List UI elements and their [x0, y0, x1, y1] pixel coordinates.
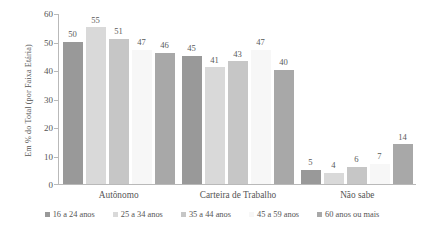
bar	[274, 70, 294, 184]
bar-value-label: 45	[187, 44, 196, 53]
bar-slot: 40	[272, 14, 295, 184]
bar-slot: 47	[130, 14, 153, 184]
bar-value-label: 47	[137, 38, 146, 47]
bar-value-label: 47	[256, 38, 265, 47]
chart-legend: 16 a 24 anos25 a 34 anos35 a 44 anos45 a…	[0, 210, 424, 219]
bar-value-label: 5	[308, 158, 312, 167]
bar-value-label: 6	[354, 155, 358, 164]
bar	[182, 56, 202, 184]
y-axis-tick-label: 40	[44, 67, 53, 76]
legend-label: 60 anos ou mais	[325, 210, 379, 219]
bar-slot: 4	[322, 14, 345, 184]
bar-value-label: 55	[91, 16, 100, 25]
bar-value-label: 40	[279, 58, 288, 67]
y-axis-tick-mark	[54, 43, 58, 44]
legend-swatch-icon	[181, 212, 186, 217]
bar-value-label: 51	[114, 27, 123, 36]
bar	[205, 67, 225, 184]
bar	[347, 167, 367, 184]
y-axis-title: Em % do Total (por Faixa Etária)	[24, 11, 33, 191]
legend-label: 35 a 44 anos	[189, 210, 231, 219]
legend-item[interactable]: 45 a 59 anos	[249, 210, 299, 219]
legend-label: 16 a 24 anos	[53, 210, 95, 219]
legend-item[interactable]: 25 a 34 anos	[113, 210, 163, 219]
x-axis-category-labels: AutônomoCarteira de TrabalhoNão sabe	[59, 190, 417, 200]
bar-value-label: 7	[377, 152, 381, 161]
bar-slot: 45	[180, 14, 203, 184]
legend-swatch-icon	[249, 212, 254, 217]
bar-value-label: 41	[210, 56, 219, 65]
bar	[370, 164, 390, 184]
y-axis-tick-mark	[54, 71, 58, 72]
bar-value-label: 43	[233, 50, 242, 59]
legend-swatch-icon	[317, 212, 322, 217]
legend-item[interactable]: 35 a 44 anos	[181, 210, 231, 219]
bar-slot: 51	[107, 14, 130, 184]
x-axis-category-label: Autônomo	[59, 190, 178, 200]
y-axis-tick-label: 30	[44, 95, 53, 104]
bar	[228, 61, 248, 184]
bar-slot: 14	[391, 14, 414, 184]
x-axis-category-label: Carteira de Trabalho	[178, 190, 297, 200]
x-axis-category-label: Não sabe	[298, 190, 417, 200]
legend-swatch-icon	[45, 212, 50, 217]
plot-area: 0102030405060 50555147464541434740546714	[58, 14, 416, 185]
bar-slot: 46	[153, 14, 176, 184]
bar	[251, 50, 271, 184]
bar	[132, 50, 152, 184]
y-axis-tick-label: 60	[44, 10, 53, 19]
y-axis-tick-label: 0	[49, 181, 54, 190]
bar-value-label: 4	[331, 161, 335, 170]
bar-slot: 43	[226, 14, 249, 184]
bar	[155, 53, 175, 184]
y-axis-tick-label: 10	[44, 152, 53, 161]
bar-group: 5055514746	[59, 14, 178, 184]
bar-group: 4541434740	[178, 14, 297, 184]
bar	[86, 27, 106, 184]
bar	[109, 39, 129, 184]
legend-item[interactable]: 60 anos ou mais	[317, 210, 379, 219]
y-axis-tick-mark	[54, 184, 58, 185]
bar-value-label: 46	[160, 41, 169, 50]
legend-label: 25 a 34 anos	[121, 210, 163, 219]
legend-swatch-icon	[113, 212, 118, 217]
y-axis-tick-mark	[54, 14, 58, 15]
y-axis-tick-mark	[54, 157, 58, 158]
bar-value-label: 14	[398, 133, 407, 142]
y-axis-tick-mark	[54, 128, 58, 129]
bar-slot: 47	[249, 14, 272, 184]
bar	[301, 170, 321, 184]
bar-value-label: 50	[68, 30, 77, 39]
y-axis-tick-label: 20	[44, 124, 53, 133]
bar-groups: 50555147464541434740546714	[59, 14, 416, 184]
bar-group: 546714	[297, 14, 416, 184]
y-axis-tick-label: 50	[44, 38, 53, 47]
bar-chart: Em % do Total (por Faixa Etária) 0102030…	[0, 0, 424, 234]
legend-item[interactable]: 16 a 24 anos	[45, 210, 95, 219]
bar-slot: 7	[368, 14, 391, 184]
x-axis-line	[58, 184, 416, 185]
bar	[63, 42, 83, 185]
bar-slot: 5	[299, 14, 322, 184]
bar	[324, 173, 344, 184]
bar-slot: 6	[345, 14, 368, 184]
bar	[393, 144, 413, 184]
bar-slot: 41	[203, 14, 226, 184]
bar-slot: 50	[61, 14, 84, 184]
y-axis-tick-mark	[54, 100, 58, 101]
legend-label: 45 a 59 anos	[257, 210, 299, 219]
bar-slot: 55	[84, 14, 107, 184]
